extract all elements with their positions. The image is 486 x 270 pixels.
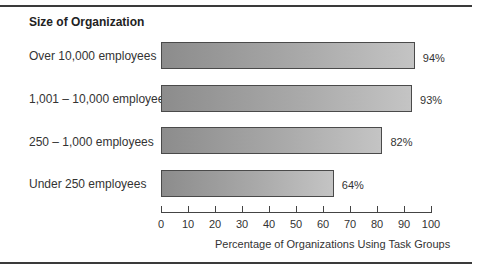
value-label: 64% [342, 178, 364, 192]
bar [161, 85, 412, 112]
x-tick [323, 206, 324, 213]
value-label: 93% [420, 93, 442, 107]
x-tick-label: 30 [227, 218, 257, 230]
chart-title: Size of Organization [29, 15, 144, 29]
category-label: 250 – 1,000 employees [29, 135, 154, 149]
x-tick [161, 206, 162, 213]
x-tick-label: 100 [416, 218, 446, 230]
category-label: Over 10,000 employees [29, 49, 156, 63]
value-label: 82% [390, 135, 412, 149]
x-tick [404, 206, 405, 213]
category-label: 1,001 – 10,000 employees [29, 92, 170, 106]
x-tick [215, 206, 216, 213]
x-tick [377, 206, 378, 213]
x-tick-label: 10 [173, 218, 203, 230]
x-tick [188, 206, 189, 213]
x-tick-label: 60 [308, 218, 338, 230]
x-tick-label: 90 [389, 218, 419, 230]
bottom-rule [0, 262, 472, 264]
x-tick-label: 0 [146, 218, 176, 230]
bar [161, 170, 334, 197]
x-tick [242, 206, 243, 213]
x-tick-label: 40 [254, 218, 284, 230]
x-tick-label: 20 [200, 218, 230, 230]
bar [161, 127, 382, 154]
x-tick [296, 206, 297, 213]
x-tick-label: 70 [335, 218, 365, 230]
x-tick-label: 80 [362, 218, 392, 230]
x-tick [269, 206, 270, 213]
x-axis-label: Percentage of Organizations Using Task G… [215, 238, 450, 250]
x-tick-label: 50 [281, 218, 311, 230]
x-tick [431, 206, 432, 213]
value-label: 94% [423, 51, 445, 65]
category-label: Under 250 employees [29, 177, 146, 191]
x-tick [350, 206, 351, 213]
bar [161, 42, 415, 69]
top-rule [0, 5, 472, 7]
